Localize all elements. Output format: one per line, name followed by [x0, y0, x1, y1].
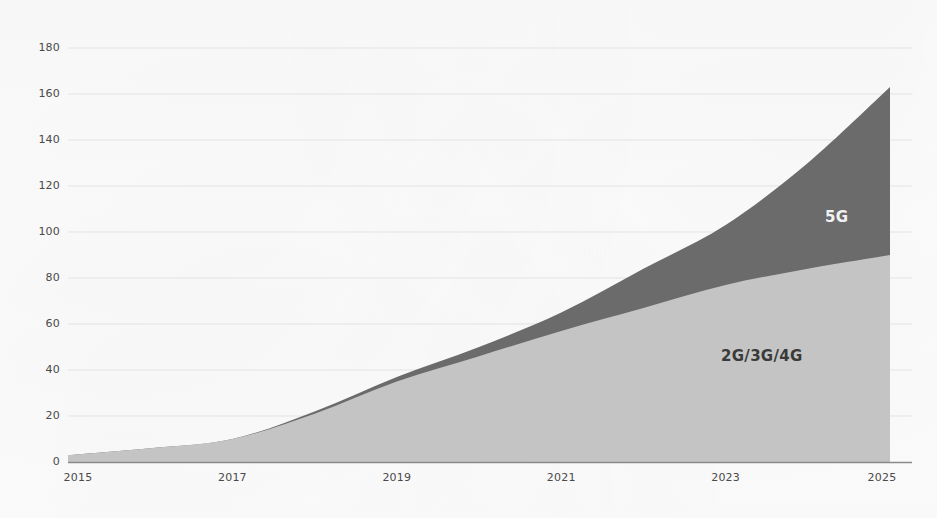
y-axis-tick-label: 20 — [20, 409, 60, 422]
x-axis-tick-label: 2025 — [852, 471, 912, 484]
x-axis-tick-label: 2023 — [696, 471, 756, 484]
y-axis-tick-label: 140 — [20, 133, 60, 146]
y-axis-tick-label: 80 — [20, 271, 60, 284]
y-axis-tick-label: 40 — [20, 363, 60, 376]
series-label-5g: 5G — [825, 208, 848, 226]
stacked-area-chart: 020406080100120140160180 201520172019202… — [0, 0, 937, 518]
y-axis-tick-label: 100 — [20, 225, 60, 238]
y-axis-tick-label: 0 — [20, 455, 60, 468]
y-axis-tick-label: 180 — [20, 41, 60, 54]
y-axis-tick-label: 160 — [20, 87, 60, 100]
plot-canvas — [0, 0, 937, 518]
area-series-group — [68, 87, 890, 462]
x-axis-tick-label: 2017 — [202, 471, 262, 484]
x-axis-tick-label: 2015 — [48, 471, 108, 484]
series-label-2g-3g-4g: 2G/3G/4G — [721, 347, 803, 365]
x-axis-tick-label: 2019 — [367, 471, 427, 484]
y-axis-tick-label: 120 — [20, 179, 60, 192]
x-axis-tick-label: 2021 — [531, 471, 591, 484]
y-axis-tick-label: 60 — [20, 317, 60, 330]
